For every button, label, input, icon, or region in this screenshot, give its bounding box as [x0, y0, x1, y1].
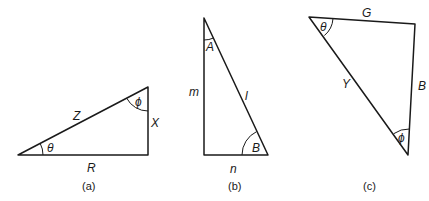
side-b-label: B: [418, 79, 426, 93]
side-l-label: l: [245, 89, 248, 103]
side-n-label: n: [230, 162, 237, 176]
angle-a-label: A: [205, 40, 214, 54]
side-y-label: Y: [342, 77, 351, 91]
triangle-b: A B m l n (b): [189, 18, 268, 192]
caption-a: (a): [82, 180, 95, 192]
caption-b: (b): [228, 180, 241, 192]
side-z-label: Z: [72, 109, 81, 123]
triangle-a-outline: [18, 87, 148, 155]
side-x-label: X: [150, 116, 160, 130]
side-r-label: R: [87, 161, 96, 175]
angle-theta-label-a: θ: [47, 141, 54, 155]
caption-c: (c): [363, 180, 376, 192]
angle-phi-label-a: ϕ: [135, 95, 142, 109]
side-g-label: G: [362, 6, 371, 20]
side-m-label: m: [189, 85, 199, 99]
triangle-a: θ ϕ Z X R (a): [18, 87, 160, 192]
triangle-c: θ ϕ G B Y (c): [309, 6, 426, 192]
angle-phi-label-c: ϕ: [398, 131, 405, 145]
angle-b-label: B: [252, 141, 260, 155]
triangle-b-outline: [204, 18, 268, 155]
right-triangle-diagrams: θ ϕ Z X R (a) A B m l n (b) θ ϕ G B Y (c…: [0, 0, 429, 201]
angle-theta-arc-a: [40, 143, 43, 155]
angle-theta-label-c: θ: [320, 20, 327, 34]
